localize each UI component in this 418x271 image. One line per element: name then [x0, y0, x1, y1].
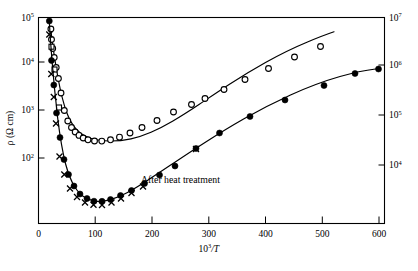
ytick-label-right-2: 105 [389, 109, 402, 121]
xtick-label-6: 600 [372, 229, 387, 239]
ytick-label-right-0: 107 [389, 11, 403, 23]
x-axis-tick-labels: 0 100 200 300 400 500 600 [36, 229, 386, 239]
xtick-label-0: 0 [36, 229, 41, 239]
left-axis-title: ρ (Ω cm) [5, 111, 16, 145]
xtick-label-2: 200 [145, 229, 160, 239]
ytick-label-left-3: 102 [21, 152, 34, 164]
xlabel-text: 103/T [198, 242, 219, 254]
xtick-label-3: 300 [202, 229, 217, 239]
plot-frame [39, 18, 385, 224]
series-as-grown-curve [50, 27, 334, 142]
ytick-label-left-2: 103 [21, 104, 34, 116]
ytick-label-right-1: 106 [389, 59, 402, 71]
resistivity-vs-inverse-temperature-chart: 105 104 103 102 ρ (Ω cm) 107 106 105 [0, 0, 418, 271]
series-as-grown-markers [48, 26, 323, 144]
annotation-after-heat-treatment: After heat treatment [141, 174, 220, 185]
xtick-label-1: 100 [88, 229, 103, 239]
right-axis-tick-labels: 107 106 105 104 [389, 11, 403, 170]
ytick-label-right-3: 104 [389, 159, 403, 171]
right-axis-ticks [379, 18, 385, 166]
left-axis-ticks [39, 18, 45, 159]
ytick-label-left-1: 104 [21, 56, 35, 68]
x-axis-title: 103/T [198, 242, 219, 254]
annotation-text: After heat treatment [141, 174, 220, 185]
ytick-label-left-0: 105 [21, 11, 34, 23]
x-axis-ticks [39, 217, 380, 224]
ylabel-left-text: ρ (Ω cm) [5, 111, 16, 145]
figure-container: 105 104 103 102 ρ (Ω cm) 107 106 105 [0, 0, 418, 271]
left-axis-tick-labels: 105 104 103 102 [21, 11, 35, 163]
xtick-label-4: 400 [258, 229, 273, 239]
xtick-label-5: 500 [315, 229, 330, 239]
